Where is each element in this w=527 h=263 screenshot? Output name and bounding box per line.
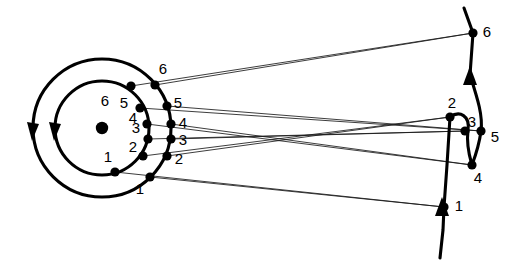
outer-circle-point-3 [166, 134, 175, 143]
right-trajectory-label-2: 2 [448, 94, 456, 111]
inner-circle-point-6 [126, 81, 135, 90]
right-trajectory-group [435, 8, 481, 258]
outer-circle-direction-arrow [27, 122, 39, 141]
outer-circle-label-4: 4 [179, 114, 187, 131]
connection-line-outer-4-to-right-4 [171, 124, 472, 165]
connection-line-outer-5-to-right-5 [167, 106, 481, 131]
outer-circle-point-4 [166, 119, 175, 128]
outer-circle-point-6 [150, 80, 159, 89]
right-trajectory-label-1: 1 [455, 197, 463, 214]
outer-circle-point-5 [162, 101, 171, 110]
outer-circle-label-6: 6 [159, 60, 167, 77]
right-trajectory-arrow-upper [463, 66, 477, 85]
outer-circle-label-5: 5 [174, 94, 182, 111]
right-trajectory-lower-stem [440, 117, 450, 258]
inner-circle-point-3 [143, 134, 152, 143]
outer-circle-label-1: 1 [136, 180, 144, 197]
right-trajectory-point-5 [476, 126, 485, 135]
inner-circle-point-1 [110, 167, 119, 176]
inner-circle-label-5: 5 [120, 94, 128, 111]
right-trajectory-upper-stem [464, 8, 473, 75]
outer-circle-point-1 [145, 172, 154, 181]
inner-circle-direction-arrow [49, 122, 61, 141]
right-trajectory-label-4: 4 [474, 169, 482, 186]
right-trajectory-label-3: 3 [468, 113, 476, 130]
connection-line-inner-4-to-right-4 [147, 124, 472, 165]
connection-line-inner-2-to-right-2 [143, 117, 450, 156]
inner-circle-label-2: 2 [129, 138, 137, 155]
inner-circle-label-1: 1 [104, 148, 112, 165]
outer-circle-point-2 [162, 151, 171, 160]
outer-circle-label-3: 3 [179, 131, 187, 148]
connection-line-outer-2-to-right-2 [167, 117, 450, 156]
connection-line-inner-1-to-right-1 [115, 172, 444, 207]
right-trajectory-loop [450, 75, 481, 165]
right-trajectory-point-6 [468, 28, 477, 37]
outer-circle-label-2: 2 [175, 150, 183, 167]
right-trajectory-point-2 [445, 112, 454, 121]
right-trajectory-label-5: 5 [491, 128, 499, 145]
orbit-center-dot [96, 122, 108, 134]
orbit-projection-diagram: 123456123456123456 [0, 0, 527, 263]
right-trajectory-point-1 [439, 202, 448, 211]
figure-canvas: 123456123456123456 [0, 0, 527, 263]
connection-line-inner-3-to-right-3 [148, 131, 465, 139]
inner-circle-label-4: 4 [129, 109, 137, 126]
right-trajectory-label-6: 6 [483, 23, 491, 40]
inner-circle-point-2 [138, 151, 147, 160]
inner-circle-point-4 [142, 119, 151, 128]
connection-line-inner-6-to-right-6 [131, 33, 473, 86]
inner-circle-label-6: 6 [101, 92, 109, 109]
